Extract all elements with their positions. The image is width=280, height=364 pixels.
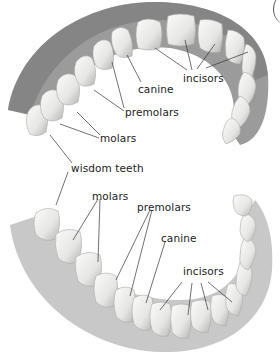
label-upper-incisors: incisors bbox=[183, 73, 224, 84]
label-upper-premolars: premolars bbox=[125, 107, 179, 118]
teeth-illustration bbox=[0, 0, 280, 364]
label-lower-premolars: premolars bbox=[137, 202, 191, 213]
label-lower-molars: molars bbox=[92, 191, 128, 202]
label-lower-incisors: incisors bbox=[183, 266, 224, 277]
label-upper-molars: molars bbox=[100, 133, 136, 144]
upper-jaw bbox=[8, 2, 268, 145]
label-lower-canine: canine bbox=[161, 233, 197, 244]
teeth-diagram: incisors canine premolars molars wisdom … bbox=[0, 0, 280, 364]
label-upper-canine: canine bbox=[138, 84, 174, 95]
lower-jaw bbox=[10, 195, 272, 352]
label-wisdom-teeth: wisdom teeth bbox=[71, 163, 144, 174]
